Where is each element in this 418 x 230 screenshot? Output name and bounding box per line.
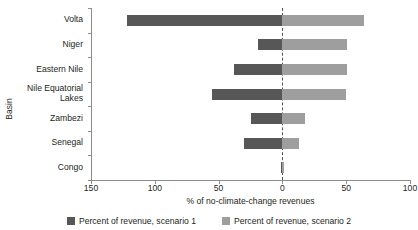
y-axis-tick — [88, 57, 92, 58]
bar-positive — [282, 89, 346, 100]
x-axis-tick-label: 150 — [84, 183, 98, 193]
chart-legend: Percent of revenue, scenario 1Percent of… — [0, 216, 418, 230]
bar-negative — [258, 39, 282, 50]
y-axis-category-label: Nile Equatorial Lakes — [0, 84, 83, 103]
horizontal-bar-chart: Basin VoltaNigerEastern NileNile Equator… — [0, 0, 418, 230]
bar-negative — [212, 89, 282, 100]
legend-label: Percent of revenue, scenario 1 — [79, 216, 196, 226]
x-axis-tick-labels: 15010050050100 — [91, 183, 410, 195]
y-axis-tick — [88, 8, 92, 9]
y-axis-category-label: Eastern Nile — [0, 65, 83, 75]
x-axis-tick-label: 50 — [214, 183, 224, 193]
y-axis-category-label: Volta — [0, 15, 83, 25]
y-axis-line — [91, 8, 92, 180]
y-axis-tick — [88, 155, 92, 156]
y-axis-category-label: Niger — [0, 40, 83, 50]
bar-positive — [282, 113, 305, 124]
bar-negative — [251, 113, 283, 124]
bar-positive — [282, 162, 283, 173]
x-axis-title: % of no-climate-change revenues — [91, 196, 410, 206]
bar-positive — [282, 64, 347, 75]
y-axis-tick — [88, 106, 92, 107]
x-axis-tick-label: 100 — [148, 183, 162, 193]
legend-item: Percent of revenue, scenario 2 — [222, 216, 351, 226]
bar-positive — [282, 15, 364, 26]
bar-positive — [282, 138, 299, 149]
legend-swatch-icon — [67, 217, 75, 225]
y-axis-tick — [88, 82, 92, 83]
bar-positive — [282, 39, 347, 50]
x-axis-tick-label: 0 — [280, 183, 285, 193]
bar-negative — [127, 15, 283, 26]
legend-label: Percent of revenue, scenario 2 — [234, 216, 351, 226]
bar-negative — [234, 64, 282, 75]
y-axis-category-label: Zambezi — [0, 114, 83, 124]
y-axis-category-labels: VoltaNigerEastern NileNile Equatorial La… — [0, 8, 87, 180]
x-axis-tick-label: 100 — [403, 183, 417, 193]
y-axis-tick — [88, 131, 92, 132]
y-axis-tick — [88, 33, 92, 34]
x-axis-line — [91, 180, 410, 181]
plot-area — [91, 8, 410, 180]
legend-item: Percent of revenue, scenario 1 — [67, 216, 196, 226]
legend-swatch-icon — [222, 217, 230, 225]
x-axis-tick-label: 50 — [341, 183, 351, 193]
y-axis-category-label: Senegal — [0, 138, 83, 148]
y-axis-category-label: Congo — [0, 163, 83, 173]
bar-negative — [244, 138, 282, 149]
